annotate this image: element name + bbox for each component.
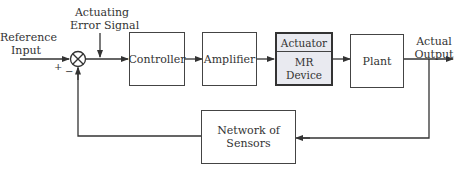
minus-sign: −: [65, 66, 73, 77]
plus-sign: +: [54, 61, 62, 72]
error-signal-label: Actuating Error Signal: [70, 6, 134, 32]
actuator-mr-device-block: Actuator MR Device: [275, 32, 333, 86]
actuator-label: Actuator: [277, 34, 331, 52]
reference-input-label: Reference Input: [0, 31, 52, 57]
actual-output-label: Actual Output: [403, 35, 465, 61]
network-of-sensors-block: Network of Sensors: [201, 110, 296, 164]
amplifier-block: Amplifier: [202, 32, 257, 86]
mr-device-label: MR Device: [277, 52, 331, 85]
controller-block: Controller: [129, 32, 185, 86]
plant-block: Plant: [350, 34, 404, 88]
